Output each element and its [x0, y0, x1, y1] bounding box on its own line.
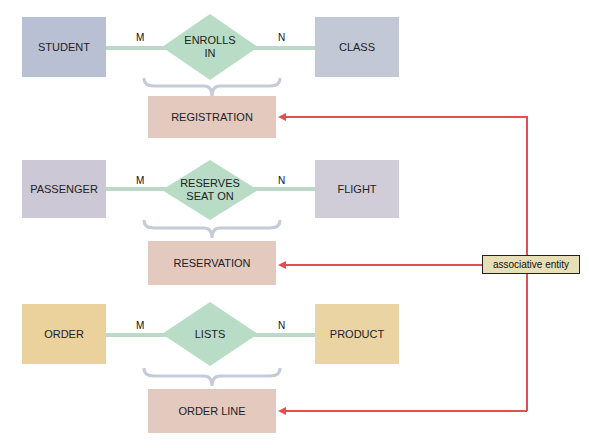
relationship-label: RESERVES SEAT ON: [162, 160, 258, 220]
callout-line-reservation: [284, 264, 484, 266]
callout-label: associative entity: [493, 259, 569, 270]
arrow-head-icon: [278, 261, 286, 269]
relationship-label: ENROLLS IN: [162, 14, 258, 80]
entity-label: FLIGHT: [337, 183, 376, 195]
arrow-head-icon: [278, 407, 286, 415]
callout-line-order-line: [284, 410, 527, 412]
associative-entity-reservation: RESERVATION: [148, 241, 276, 285]
entity-passenger: PASSENGER: [22, 160, 106, 218]
entity-label: RESERVATION: [173, 257, 250, 269]
relationship-enrolls-in: ENROLLS IN: [162, 14, 258, 80]
brace-icon: [142, 76, 282, 98]
entity-label: CLASS: [339, 41, 375, 53]
entity-label: PASSENGER: [30, 183, 98, 195]
relationship-reserves-seat-on: RESERVES SEAT ON: [162, 160, 258, 220]
entity-label: REGISTRATION: [171, 111, 253, 123]
relationship-label: LISTS: [162, 302, 258, 366]
entity-product: PRODUCT: [315, 304, 399, 364]
cardinality-m: M: [136, 32, 144, 43]
arrow-head-icon: [278, 113, 286, 121]
cardinality-m: M: [136, 175, 144, 186]
cardinality-n: N: [278, 320, 285, 331]
associative-entity-registration: REGISTRATION: [148, 96, 276, 138]
associative-entity-label: associative entity: [482, 255, 580, 274]
entity-label: ORDER LINE: [178, 405, 245, 417]
entity-label: PRODUCT: [330, 328, 384, 340]
associative-entity-order-line: ORDER LINE: [148, 389, 276, 433]
relationship-lists: LISTS: [162, 302, 258, 366]
callout-line-registration: [284, 116, 527, 118]
entity-student: STUDENT: [22, 17, 106, 77]
cardinality-m: M: [136, 320, 144, 331]
brace-icon: [142, 218, 282, 240]
entity-flight: FLIGHT: [315, 160, 399, 218]
entity-class: CLASS: [315, 17, 399, 77]
entity-label: STUDENT: [38, 41, 90, 53]
cardinality-n: N: [278, 32, 285, 43]
cardinality-n: N: [278, 175, 285, 186]
brace-icon: [142, 366, 282, 388]
entity-order: ORDER: [22, 304, 106, 364]
entity-label: ORDER: [44, 328, 84, 340]
